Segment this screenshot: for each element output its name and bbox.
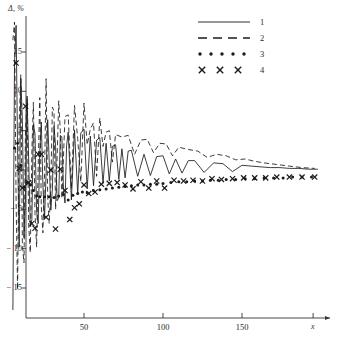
- series-dot-3: [43, 195, 46, 198]
- series-dot-3: [16, 142, 19, 145]
- series-x-4: [77, 201, 82, 206]
- y-tick-label: 15: [0, 46, 22, 56]
- series-dot-3: [32, 189, 35, 192]
- x-tick-label: 50: [71, 322, 97, 332]
- legend-sample-2: [196, 30, 252, 46]
- y-tick-label: − 5: [0, 203, 22, 213]
- series-dot-3: [117, 186, 120, 189]
- series-dot-3: [71, 194, 74, 197]
- legend-label: 3: [260, 48, 264, 60]
- series-x-4: [99, 182, 104, 187]
- series-dot-3: [291, 176, 294, 179]
- series-dot-3: [282, 176, 285, 179]
- series-x-4: [58, 167, 63, 172]
- series-x-4: [130, 186, 135, 191]
- series-dot-3: [310, 176, 313, 179]
- series-dot-3: [111, 187, 114, 190]
- series-x-4: [162, 185, 167, 190]
- series-dot-3: [105, 187, 108, 190]
- series-x-4: [67, 217, 72, 222]
- series-x-4: [138, 179, 143, 184]
- series-dot-3: [35, 195, 38, 198]
- series-dot-3: [67, 198, 70, 201]
- series-x-4: [115, 180, 120, 185]
- series-x-4: [107, 181, 112, 186]
- legend-dot: [198, 52, 201, 55]
- legend-label: 4: [260, 64, 264, 76]
- series-dot-3: [57, 195, 60, 198]
- y-tick-label: 10: [0, 85, 22, 95]
- series-x-4: [181, 178, 186, 183]
- y-tick-label: 5: [0, 125, 22, 135]
- series-x-4: [200, 178, 205, 183]
- series-x-4: [81, 182, 86, 187]
- legend-sample-1: [196, 14, 252, 30]
- series-x-4: [299, 174, 304, 179]
- legend-glyph-solid-line: [196, 14, 252, 30]
- legend-item-2: 2: [196, 30, 328, 46]
- chart-legend: 1234: [196, 14, 328, 78]
- y-tick-label: − 15: [0, 282, 22, 292]
- y-tick-label: 0: [0, 164, 22, 174]
- chart-figure: Δ, % x 151050− 5− 10− 1550100150 1234: [0, 0, 339, 345]
- series-dot-3: [225, 178, 228, 181]
- legend-glyph-x-markers: [196, 62, 252, 78]
- x-axis-arrow: [325, 316, 330, 320]
- series-x-4: [274, 174, 279, 179]
- series-dot-3: [162, 182, 165, 185]
- series-x-4: [219, 177, 224, 182]
- x-tick-label: 150: [229, 322, 255, 332]
- series-x-4: [53, 226, 58, 231]
- series-x-4: [209, 176, 214, 181]
- series-dot-3: [38, 195, 41, 198]
- series-x-4: [230, 176, 235, 181]
- legend-dot: [209, 52, 212, 55]
- series-dot-3: [13, 147, 16, 150]
- legend-label: 2: [260, 32, 264, 44]
- legend-item-3: 3: [196, 46, 328, 62]
- series-dot-3: [98, 188, 101, 191]
- series-dot-3: [81, 191, 84, 194]
- legend-dot: [242, 52, 245, 55]
- series-x-4: [92, 189, 97, 194]
- series-dot-3: [76, 192, 79, 195]
- legend-dot: [220, 52, 223, 55]
- x-tick-label: 100: [150, 322, 176, 332]
- legend-glyph-dashed-line: [196, 30, 252, 46]
- y-tick-label: − 10: [0, 243, 22, 253]
- legend-dot: [231, 52, 234, 55]
- legend-item-1: 1: [196, 14, 328, 30]
- series-dot-3: [48, 195, 51, 198]
- series-dot-3: [53, 196, 56, 199]
- series-x-4: [146, 185, 151, 190]
- legend-label: 1: [260, 16, 264, 28]
- y-axis-title: Δ, %: [8, 4, 24, 13]
- x-axis-title: x: [311, 322, 315, 331]
- series-dot-3: [177, 180, 180, 183]
- series-x-4: [171, 178, 176, 183]
- legend-sample-3: [196, 46, 252, 62]
- series-x-4: [32, 226, 37, 231]
- series-dot-3: [62, 193, 65, 196]
- series-dot-3: [149, 183, 152, 186]
- legend-item-4: 4: [196, 62, 328, 78]
- legend-glyph-dotted-markers: [196, 46, 252, 62]
- series-dot-3: [155, 183, 158, 186]
- legend-sample-4: [196, 62, 252, 78]
